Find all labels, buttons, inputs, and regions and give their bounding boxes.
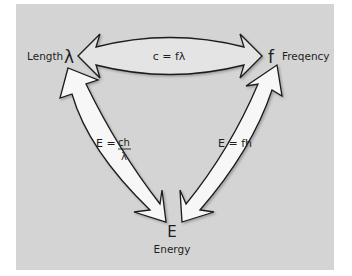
energy-wavelength-equation-lhs: E = [96, 137, 116, 150]
energy-frequency-equation: E = fh [218, 137, 252, 150]
energy-label: Energy [154, 243, 191, 255]
frequency-symbol: f [268, 47, 275, 67]
length-label: Length [27, 50, 63, 62]
frequency-label: Freqency [282, 50, 330, 62]
energy-wavelength-denominator: λ [121, 151, 127, 162]
wave-energy-relationship-diagram: Length λ c = fλ f Freqency E = ch λ E = … [0, 0, 352, 276]
energy-symbol: E [167, 223, 176, 241]
energy-wavelength-numerator: ch [118, 137, 130, 148]
speed-of-light-equation: c = fλ [153, 50, 186, 63]
lambda-symbol: λ [64, 47, 74, 67]
